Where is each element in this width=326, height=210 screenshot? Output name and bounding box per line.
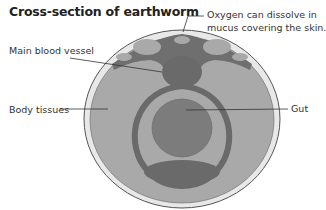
label-oxygen-line1: Oxygen can dissolve in (207, 8, 326, 21)
label-main-blood-vessel: Main blood vessel (9, 44, 94, 57)
label-oxygen-line2: mucus covering the skin. (207, 21, 326, 34)
label-body-tissues: Body tissues (9, 103, 69, 116)
label-oxygen: Oxygen can dissolve in mucus covering th… (207, 8, 326, 34)
label-gut: Gut (291, 102, 308, 115)
